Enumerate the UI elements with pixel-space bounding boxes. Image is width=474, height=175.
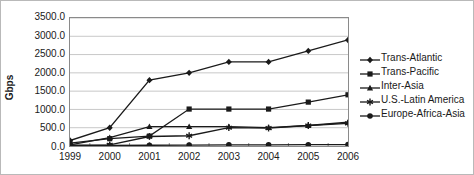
- legend-item-inter-asia[interactable]: Inter-Asia: [359, 79, 471, 93]
- legend-marker-asterisk-icon: [359, 94, 381, 106]
- y-axis-tick-label: 3000.0: [19, 31, 65, 41]
- legend-item-trans-atlantic[interactable]: Trans-Atlantic: [359, 51, 471, 65]
- data-point-marker: [305, 142, 311, 146]
- x-axis-tick-label: 2005: [297, 151, 319, 162]
- legend-item-label: Europe-Africa-Asia: [381, 108, 465, 120]
- x-axis-tick-label: 2004: [257, 151, 279, 162]
- data-point-marker: [266, 106, 271, 111]
- data-point-marker: [367, 113, 373, 119]
- x-axis-tick-label: 2003: [218, 151, 240, 162]
- data-point-marker: [266, 142, 272, 146]
- data-point-marker: [345, 37, 348, 43]
- data-point-marker: [345, 92, 348, 97]
- data-point-marker: [305, 48, 311, 54]
- y-axis-tick-labels: 0.0500.01000.01500.02000.02500.03000.035…: [17, 1, 65, 175]
- x-axis-tick-label: 2000: [99, 151, 121, 162]
- y-axis-tick-label: 500.0: [19, 123, 65, 133]
- y-axis-title: Gbps: [3, 57, 17, 117]
- chart-screenshot: Gbps 0.0500.01000.01500.02000.02500.0300…: [0, 0, 474, 175]
- y-axis-title-text: Gbps: [5, 74, 16, 100]
- legend-marker-square-icon: [359, 66, 381, 78]
- legend-marker-triangle-icon: [359, 80, 381, 92]
- legend-item-europe-africa-asia[interactable]: Europe-Africa-Asia: [359, 107, 471, 121]
- data-point-marker: [226, 106, 231, 111]
- legend-item-label: Trans-Pacific: [381, 66, 439, 78]
- chart-canvas: [70, 18, 348, 146]
- x-axis-tick-label: 1999: [59, 151, 81, 162]
- data-point-marker: [187, 106, 192, 111]
- data-point-marker: [306, 100, 311, 105]
- y-axis-tick-label: 2000.0: [19, 68, 65, 78]
- data-point-marker: [266, 59, 272, 65]
- series-u-s-latin-america: [70, 120, 348, 146]
- data-point-marker: [226, 59, 232, 65]
- y-axis-tick-label: 3500.0: [19, 12, 65, 22]
- legend-item-label: Inter-Asia: [381, 80, 424, 92]
- chart-legend: Trans-AtlanticTrans-PacificInter-AsiaU.S…: [359, 51, 471, 121]
- x-axis-tick-label: 2002: [178, 151, 200, 162]
- legend-marker-circle-icon: [359, 108, 381, 120]
- y-axis-tick-label: 1500.0: [19, 86, 65, 96]
- data-point-marker: [367, 71, 372, 76]
- data-point-marker: [367, 57, 373, 63]
- legend-item-u-s-latin-america[interactable]: U.S.-Latin America: [359, 93, 471, 107]
- data-point-marker: [345, 142, 348, 146]
- data-point-marker: [186, 142, 192, 146]
- data-point-marker: [186, 70, 192, 76]
- x-axis-tick-labels: 19992000200120022003200420052006: [69, 151, 349, 167]
- data-point-marker: [226, 142, 232, 146]
- y-axis-tick-label: 2500.0: [19, 49, 65, 59]
- x-axis-tick-label: 2006: [337, 151, 359, 162]
- legend-item-label: U.S.-Latin America: [381, 94, 464, 106]
- legend-marker-diamond-icon: [359, 52, 381, 64]
- legend-item-trans-pacific[interactable]: Trans-Pacific: [359, 65, 471, 79]
- data-point-marker: [147, 142, 153, 146]
- series-inter-asia: [70, 119, 348, 146]
- plot-area: [69, 17, 349, 147]
- x-axis-tick-label: 2001: [138, 151, 160, 162]
- legend-item-label: Trans-Atlantic: [381, 52, 442, 64]
- y-axis-tick-label: 1000.0: [19, 105, 65, 115]
